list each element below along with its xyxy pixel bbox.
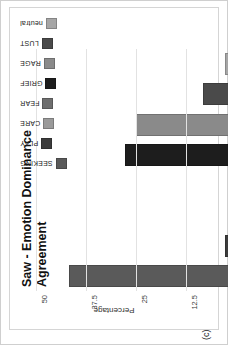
legend-item-neutral[interactable]: neutral: [20, 16, 57, 31]
bar-rage: [136, 114, 228, 136]
legend-item-care[interactable]: CARE: [20, 116, 54, 131]
y-tick-label: 37.5: [90, 295, 99, 310]
legend-label: CARE: [20, 120, 40, 127]
y-axis-tick-labels: 012.52537.550: [18, 293, 198, 329]
legend-swatch: [46, 18, 57, 29]
legend-item-play[interactable]: PLAY: [20, 136, 52, 151]
legend-label: RAGE: [20, 60, 41, 67]
legend-label: PLAY: [20, 140, 38, 147]
bar-lust: [203, 84, 228, 106]
bar-neutral: [225, 53, 228, 75]
y-tick-label: 25: [140, 295, 149, 303]
figure-container: (c) Saw - Emotion Dominance Agreement Pe…: [0, 0, 228, 345]
legend-item-lust[interactable]: LUST: [20, 36, 53, 51]
legend-swatch: [41, 138, 52, 149]
legend-item-grief[interactable]: GRIEF: [20, 76, 56, 91]
bar-grief: [125, 144, 228, 166]
legend-item-fear[interactable]: FEAR: [20, 96, 53, 111]
figure-page: (c) Saw - Emotion Dominance Agreement Pe…: [0, 0, 228, 345]
legend-label: GRIEF: [20, 80, 42, 87]
bar-play: [225, 235, 228, 257]
legend-label: FEAR: [20, 100, 39, 107]
legend-label: neutral: [20, 20, 43, 27]
gridline: [186, 49, 187, 291]
legend: SEEKINGPLAYCAREFEARGRIEFRAGELUSTneutral: [20, 16, 67, 171]
legend-swatch: [42, 38, 53, 49]
legend-swatch: [45, 78, 56, 89]
bar-seeking: [69, 265, 228, 287]
legend-item-seeking[interactable]: SEEKING: [20, 156, 67, 171]
y-tick-label: 50: [40, 295, 49, 303]
plot-frame: Saw - Emotion Dominance Agreement Percen…: [9, 7, 219, 330]
panel-label: (c): [201, 330, 211, 341]
legend-swatch: [44, 58, 55, 69]
legend-swatch: [42, 98, 53, 109]
gridline: [136, 49, 137, 291]
gridline: [86, 49, 87, 291]
legend-item-rage[interactable]: RAGE: [20, 56, 55, 71]
legend-label: SEEKING: [20, 160, 53, 167]
legend-swatch: [56, 158, 67, 169]
y-tick-label: 12.5: [190, 295, 199, 310]
legend-swatch: [43, 118, 54, 129]
legend-label: LUST: [20, 40, 39, 47]
rotated-figure-wrapper: (c) Saw - Emotion Dominance Agreement Pe…: [0, 0, 228, 345]
